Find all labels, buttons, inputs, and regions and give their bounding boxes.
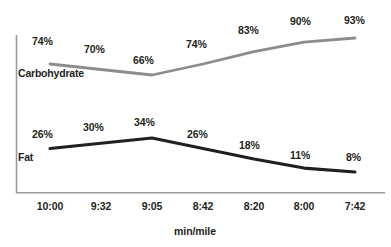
data-label-fat-4: 18% <box>239 140 260 151</box>
data-label-fat-2: 34% <box>134 117 155 128</box>
line-chart: 74% 70% 66% 74% 83% 90% 93% 26% 30% 34% … <box>0 0 391 247</box>
x-tick-label-4: 8:20 <box>231 201 277 212</box>
data-label-carbohydrate-4: 83% <box>238 25 259 36</box>
x-tick-label-0: 10:00 <box>27 201 73 212</box>
x-tick-label-5: 8:00 <box>281 201 327 212</box>
x-tick-label-3: 8:42 <box>180 201 226 212</box>
series-label-fat: Fat <box>18 152 33 163</box>
x-tick-label-1: 9:32 <box>78 201 124 212</box>
x-tick-label-6: 7:42 <box>332 201 378 212</box>
data-label-fat-6: 8% <box>346 152 361 163</box>
data-label-fat-3: 26% <box>187 129 208 140</box>
data-label-carbohydrate-3: 74% <box>186 39 207 50</box>
data-label-fat-1: 30% <box>83 122 104 133</box>
x-tick-label-2: 9:05 <box>129 201 175 212</box>
data-label-fat-5: 11% <box>290 150 310 161</box>
data-label-carbohydrate-2: 66% <box>133 55 154 66</box>
data-label-fat-0: 26% <box>32 129 53 140</box>
data-label-carbohydrate-5: 90% <box>290 16 311 27</box>
data-label-carbohydrate-6: 93% <box>344 15 365 26</box>
x-axis-title: min/mile <box>145 226 245 237</box>
data-label-carbohydrate-0: 74% <box>32 36 53 47</box>
data-label-carbohydrate-1: 70% <box>84 44 105 55</box>
series-label-carbohydrate: Carbohydrate <box>18 68 84 79</box>
